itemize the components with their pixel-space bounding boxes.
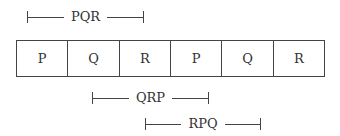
cell-4: P bbox=[171, 41, 222, 76]
bracket-pqr: PQR bbox=[27, 11, 144, 23]
cell-1: P bbox=[17, 41, 68, 76]
cell-6: R bbox=[274, 41, 324, 76]
bracket-rpq: RPQ bbox=[145, 118, 261, 130]
bracket-label: QRP bbox=[129, 90, 172, 105]
cell-5: Q bbox=[222, 41, 273, 76]
cell-3: R bbox=[120, 41, 171, 76]
bracket-qrp: QRP bbox=[92, 92, 209, 104]
cell-2: Q bbox=[68, 41, 119, 76]
bracket-label: RPQ bbox=[181, 116, 224, 131]
bracket-label: PQR bbox=[64, 9, 107, 24]
sequence-row: P Q R P Q R bbox=[16, 40, 325, 77]
